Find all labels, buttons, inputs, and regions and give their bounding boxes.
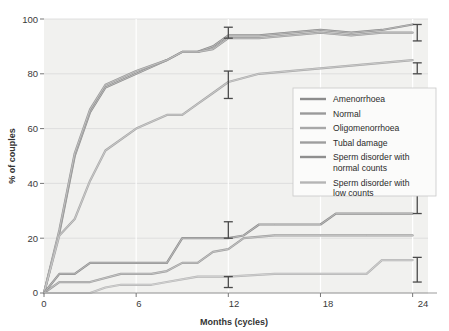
legend-label: Sperm disorder with bbox=[333, 152, 410, 162]
chart-legend: AmenorrhoeaNormalOligomenorrhoeaTubal da… bbox=[293, 88, 436, 198]
legend-label-line2: low counts bbox=[333, 188, 374, 198]
y-tick-label-20: 20 bbox=[27, 233, 38, 244]
x-tick-label-12: 12 bbox=[229, 298, 240, 309]
legend-label: Amenorrhoea bbox=[333, 94, 385, 104]
legend-label: Normal bbox=[333, 109, 361, 119]
chart-figure: 0 20 40 60 80 100 0 6 12 18 24 Months (c… bbox=[0, 0, 449, 331]
x-axis-title: Months (cycles) bbox=[200, 317, 268, 327]
legend-label: Oligomenorrhoea bbox=[333, 123, 400, 133]
line-chart: 0 20 40 60 80 100 0 6 12 18 24 Months (c… bbox=[0, 0, 449, 331]
legend-label: Sperm disorder with bbox=[333, 178, 410, 188]
legend-label: Tubal damage bbox=[333, 138, 388, 148]
x-tick-label-6: 6 bbox=[136, 298, 141, 309]
x-tick-label-0: 0 bbox=[41, 298, 46, 309]
x-tick-label-18: 18 bbox=[323, 298, 334, 309]
legend-label-line2: normal counts bbox=[333, 163, 387, 173]
x-tick-label-24: 24 bbox=[418, 298, 429, 309]
y-tick-label-0: 0 bbox=[33, 287, 38, 298]
y-tick-label-40: 40 bbox=[27, 178, 38, 189]
y-tick-label-80: 80 bbox=[27, 68, 38, 79]
y-tick-label-60: 60 bbox=[27, 123, 38, 134]
y-tick-label-100: 100 bbox=[22, 14, 38, 25]
y-axis-title: % of couples bbox=[7, 128, 17, 184]
